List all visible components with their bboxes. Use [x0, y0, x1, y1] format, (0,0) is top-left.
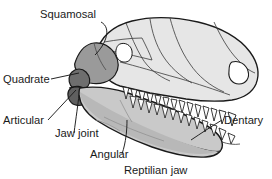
label-squamosal: Squamosal — [40, 8, 96, 20]
label-articular: Articular — [3, 114, 44, 126]
label-reptilian-jaw: Reptilian jaw — [124, 164, 188, 176]
label-quadrate: Quadrate — [3, 73, 50, 85]
label-dentary: Dentary — [224, 114, 264, 126]
label-jaw-joint: Jaw joint — [55, 127, 99, 139]
label-angular: Angular — [90, 148, 129, 160]
figure-canvas: Squamosal Quadrate Articular Jaw joint A… — [0, 0, 272, 179]
naris-opening — [116, 43, 132, 62]
